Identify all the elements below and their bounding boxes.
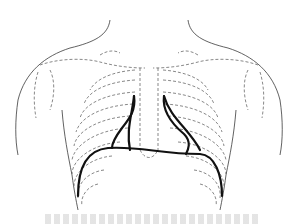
ribcage-right <box>163 70 226 206</box>
body-outline <box>16 20 283 210</box>
sternum <box>140 68 158 158</box>
ribcage-left <box>72 70 135 206</box>
clavicles-scapulae <box>34 51 263 118</box>
caption-fragment <box>45 214 260 224</box>
thorax-diagram <box>0 0 298 224</box>
